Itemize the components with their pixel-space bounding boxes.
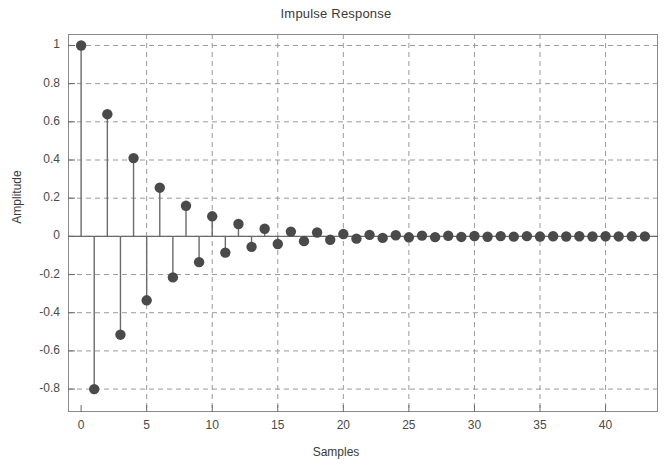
- y-tick-label: -0.2: [8, 267, 60, 281]
- page-title: Impulse Response: [0, 6, 672, 21]
- figure-canvas: Impulse Response Amplitude Samples 10.80…: [0, 0, 672, 475]
- y-tick-label: 0.2: [8, 190, 60, 204]
- x-tick-label: 0: [61, 418, 101, 432]
- axis-ticks: [68, 45, 606, 412]
- x-tick-label: 5: [127, 418, 167, 432]
- gridlines: [68, 34, 658, 412]
- y-tick-label: 1: [8, 37, 60, 51]
- y-tick-label: -0.8: [8, 381, 60, 395]
- y-tick-label: 0.4: [8, 152, 60, 166]
- y-tick-label: -0.6: [8, 343, 60, 357]
- stem-plot: [68, 34, 658, 412]
- y-tick-label: -0.4: [8, 305, 60, 319]
- y-tick-label: 0: [8, 228, 60, 242]
- x-tick-label: 20: [323, 418, 363, 432]
- x-tick-label: 40: [586, 418, 626, 432]
- y-tick-label: 0.6: [8, 114, 60, 128]
- stem-lines: [81, 45, 645, 389]
- x-tick-label: 30: [454, 418, 494, 432]
- y-tick-label: 0.8: [8, 76, 60, 90]
- x-tick-label: 10: [192, 418, 232, 432]
- data-markers: [76, 40, 650, 394]
- x-tick-label: 35: [520, 418, 560, 432]
- x-tick-label: 25: [389, 418, 429, 432]
- axis-frame: [69, 35, 658, 412]
- plot-area: [68, 34, 658, 412]
- x-tick-label: 15: [258, 418, 298, 432]
- x-axis-label: Samples: [0, 445, 672, 459]
